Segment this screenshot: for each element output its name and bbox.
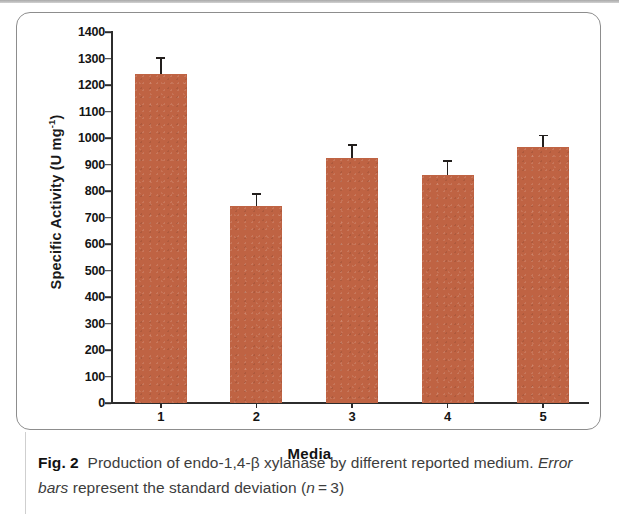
x-axis-tick-mark <box>160 403 162 408</box>
y-axis-tick-label: 400 <box>49 290 105 304</box>
figure-caption: Fig. 2 Production of endo-1,4-β xylanase… <box>38 450 598 500</box>
bar-media-3 <box>326 158 378 403</box>
error-bar-cap-media-4 <box>443 160 452 162</box>
page-top-rule <box>0 0 619 3</box>
x-axis-tick-mark <box>256 403 258 408</box>
y-axis-tick-label: 600 <box>49 237 105 251</box>
figure-caption-space1 <box>79 454 88 471</box>
y-axis-tick-label: 800 <box>49 184 105 198</box>
x-axis-tick-label-3: 3 <box>332 409 372 424</box>
x-axis-tick-label-1: 1 <box>141 409 181 424</box>
bar-media-1 <box>135 74 187 403</box>
y-axis-tick-label: 1100 <box>49 105 105 119</box>
error-bar-cap-media-5 <box>539 135 548 137</box>
x-axis-tick-mark <box>542 403 544 408</box>
figure-card: Specific Activity (U mg-1) 1400130012001… <box>16 12 601 430</box>
y-axis-tick-label: 700 <box>49 211 105 225</box>
figure-caption-text-part2: represent the standard deviation ( <box>73 479 306 496</box>
y-axis-tick-label: 0 <box>49 396 105 410</box>
y-axis-tick-label: 500 <box>49 264 105 278</box>
bars-layer: 12345 <box>111 13 589 431</box>
error-bar-media-1 <box>160 57 162 74</box>
error-bar-cap-media-2 <box>252 193 261 195</box>
figure-caption-text-part3: = 3) <box>315 479 344 496</box>
error-bar-media-5 <box>542 135 544 148</box>
y-axis-tick-label: 300 <box>49 317 105 331</box>
x-axis-tick-label-2: 2 <box>236 409 276 424</box>
figure-caption-label: Fig. 2 <box>38 454 79 471</box>
figure-caption-variable: n <box>306 479 315 496</box>
y-axis-tick-labels: 1400130012001100100090080070060050040030… <box>49 13 105 431</box>
error-bar-cap-media-1 <box>156 57 165 59</box>
bar-media-2 <box>230 206 282 403</box>
x-axis-tick-mark <box>351 403 353 408</box>
y-axis-tick-label: 1000 <box>49 131 105 145</box>
y-axis-tick-label: 900 <box>49 158 105 172</box>
error-bar-media-2 <box>256 193 258 206</box>
error-bar-media-3 <box>351 144 353 158</box>
x-axis-tick-mark <box>447 403 449 408</box>
y-axis-tick-label: 1400 <box>49 25 105 39</box>
y-axis-tick-label: 1200 <box>49 78 105 92</box>
error-bar-cap-media-3 <box>348 144 357 146</box>
y-axis-tick-label: 100 <box>49 370 105 384</box>
bar-media-5 <box>517 147 569 403</box>
bar-media-4 <box>422 175 474 403</box>
y-axis-tick-label: 1300 <box>49 52 105 66</box>
error-bar-media-4 <box>447 160 449 175</box>
x-axis-tick-label-4: 4 <box>428 409 468 424</box>
figure-caption-text-part1: Production of endo-1,4-β xylanase by dif… <box>88 454 534 471</box>
y-axis-tick-label: 200 <box>49 343 105 357</box>
bar-chart-plot-area: Specific Activity (U mg-1) 1400130012001… <box>17 13 602 431</box>
x-axis-tick-label-5: 5 <box>523 409 563 424</box>
